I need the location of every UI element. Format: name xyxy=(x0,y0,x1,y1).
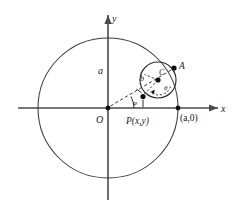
ray-tick-mark xyxy=(137,89,142,93)
axes-group xyxy=(18,15,218,200)
point-a0-dot xyxy=(176,106,181,111)
origin-label: O xyxy=(96,114,103,125)
angle-theta-label: θ xyxy=(164,84,168,92)
point-A-dot xyxy=(171,65,176,70)
radius-b-label: b xyxy=(140,74,144,83)
point-P-label: P(x,y) xyxy=(125,116,149,127)
origin-dot xyxy=(106,106,111,111)
y-axis-arrowhead xyxy=(104,15,111,24)
point-a0-label: (a,0) xyxy=(180,113,198,124)
point-A-label: A xyxy=(178,61,185,71)
cycloid-diagram: y x O a b C A P(x,y) (a,0) φ θ xyxy=(0,0,237,216)
figure-root: y x O a b C A P(x,y) (a,0) φ θ xyxy=(0,0,237,216)
point-P-dot xyxy=(140,94,145,99)
y-axis-label: y xyxy=(111,13,117,24)
x-axis-label: x xyxy=(220,103,226,114)
angle-phi-label: φ xyxy=(133,99,137,107)
small-circle-center-dot xyxy=(155,77,160,82)
radius-a-label: a xyxy=(98,65,103,76)
x-axis-arrowhead xyxy=(209,104,218,111)
center-C-label: C xyxy=(159,68,165,77)
